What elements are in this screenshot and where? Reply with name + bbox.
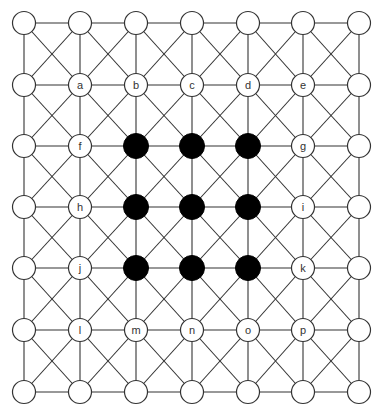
- node-label: l: [79, 324, 81, 336]
- game-board-diagram: abcdefghijklmnop: [0, 0, 386, 414]
- empty-node: [13, 257, 36, 280]
- white-circle: [348, 381, 371, 404]
- labeled-node-l: l: [69, 319, 92, 342]
- labeled-node-a: a: [69, 74, 92, 97]
- white-circle: [348, 196, 371, 219]
- white-circle: [13, 257, 36, 280]
- black-stone: [124, 195, 149, 220]
- white-circle: [348, 12, 371, 35]
- empty-node: [237, 381, 260, 404]
- empty-node: [237, 12, 260, 35]
- white-circle: [69, 12, 92, 35]
- empty-node: [13, 12, 36, 35]
- empty-node: [292, 381, 315, 404]
- white-circle: [69, 381, 92, 404]
- white-circle: [13, 135, 36, 158]
- labeled-node-o: o: [237, 319, 260, 342]
- labeled-node-p: p: [292, 319, 315, 342]
- empty-node: [69, 381, 92, 404]
- white-circle: [13, 319, 36, 342]
- filled-node: [124, 195, 149, 220]
- empty-node: [69, 12, 92, 35]
- empty-node: [13, 135, 36, 158]
- node-label: d: [245, 79, 251, 91]
- empty-node: [125, 381, 148, 404]
- white-circle: [348, 135, 371, 158]
- empty-node: [348, 12, 371, 35]
- white-circle: [348, 257, 371, 280]
- empty-node: [348, 74, 371, 97]
- black-stone: [180, 195, 205, 220]
- empty-node: [13, 319, 36, 342]
- black-stone: [124, 256, 149, 281]
- empty-node: [125, 12, 148, 35]
- white-circle: [237, 381, 260, 404]
- empty-node: [348, 319, 371, 342]
- filled-node: [124, 256, 149, 281]
- node-label: j: [78, 262, 81, 274]
- white-circle: [237, 12, 260, 35]
- empty-node: [181, 381, 204, 404]
- filled-node: [124, 134, 149, 159]
- empty-node: [348, 257, 371, 280]
- white-circle: [125, 381, 148, 404]
- node-label: k: [300, 262, 306, 274]
- node-label: b: [133, 79, 139, 91]
- labeled-node-b: b: [125, 74, 148, 97]
- node-label: n: [189, 324, 195, 336]
- labeled-node-d: d: [237, 74, 260, 97]
- labeled-node-n: n: [181, 319, 204, 342]
- empty-node: [348, 381, 371, 404]
- filled-node: [180, 134, 205, 159]
- black-stone: [236, 256, 261, 281]
- empty-node: [13, 74, 36, 97]
- labeled-node-j: j: [69, 257, 92, 280]
- labeled-node-f: f: [69, 135, 92, 158]
- black-stone: [180, 256, 205, 281]
- white-circle: [348, 74, 371, 97]
- labeled-node-i: i: [292, 196, 315, 219]
- white-circle: [13, 74, 36, 97]
- node-label: c: [189, 79, 195, 91]
- empty-node: [13, 196, 36, 219]
- filled-node: [236, 256, 261, 281]
- node-label: e: [300, 79, 306, 91]
- white-circle: [125, 12, 148, 35]
- labeled-node-g: g: [292, 135, 315, 158]
- black-stone: [236, 134, 261, 159]
- labeled-node-c: c: [181, 74, 204, 97]
- node-label: g: [300, 140, 306, 152]
- node-label: a: [77, 79, 84, 91]
- white-circle: [292, 381, 315, 404]
- white-circle: [181, 12, 204, 35]
- black-stone: [124, 134, 149, 159]
- white-circle: [348, 319, 371, 342]
- labeled-node-e: e: [292, 74, 315, 97]
- black-stone: [236, 195, 261, 220]
- white-circle: [292, 12, 315, 35]
- white-circle: [13, 381, 36, 404]
- labeled-node-h: h: [69, 196, 92, 219]
- node-label: p: [300, 324, 306, 336]
- node-label: o: [245, 324, 251, 336]
- node-label: m: [131, 324, 140, 336]
- white-circle: [13, 196, 36, 219]
- empty-node: [292, 12, 315, 35]
- white-circle: [13, 12, 36, 35]
- white-circle: [181, 381, 204, 404]
- black-stone: [180, 134, 205, 159]
- labeled-node-m: m: [125, 319, 148, 342]
- empty-node: [348, 135, 371, 158]
- filled-node: [236, 195, 261, 220]
- empty-node: [348, 196, 371, 219]
- filled-node: [180, 195, 205, 220]
- empty-node: [181, 12, 204, 35]
- empty-node: [13, 381, 36, 404]
- labeled-node-k: k: [292, 257, 315, 280]
- filled-node: [236, 134, 261, 159]
- filled-node: [180, 256, 205, 281]
- node-label: h: [77, 201, 83, 213]
- node-label: i: [302, 201, 304, 213]
